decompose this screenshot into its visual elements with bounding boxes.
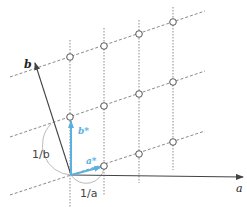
a-axis-vector bbox=[71, 175, 243, 177]
lattice-point bbox=[170, 139, 177, 146]
a-star-vector bbox=[71, 167, 101, 175]
a-label: a bbox=[236, 182, 243, 195]
lattice-point bbox=[67, 114, 74, 121]
lattice-point bbox=[67, 54, 74, 61]
lattice-point bbox=[136, 91, 143, 98]
lattice-point bbox=[101, 163, 108, 170]
lattice-points bbox=[67, 19, 177, 170]
inv-a-label: 1/a bbox=[80, 187, 97, 200]
lattice-point bbox=[136, 151, 143, 158]
inv-b-label: 1/b bbox=[32, 148, 50, 161]
lattice-point bbox=[101, 103, 108, 110]
lattice-point bbox=[136, 31, 143, 38]
reciprocal-lattice-diagram: b a b* a* 1/b 1/a bbox=[0, 0, 247, 207]
lattice-point bbox=[101, 43, 108, 50]
a-star-label: a* bbox=[86, 156, 97, 166]
lattice-point bbox=[170, 19, 177, 26]
b-label: b bbox=[24, 58, 32, 71]
lattice-columns bbox=[70, 7, 173, 207]
b-star-label: b* bbox=[78, 126, 89, 136]
lattice-point bbox=[170, 79, 177, 86]
